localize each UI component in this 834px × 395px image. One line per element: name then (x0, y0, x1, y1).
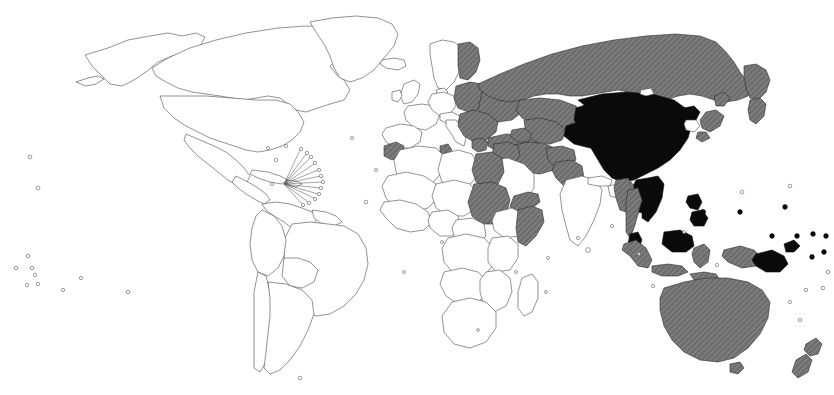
island-bahamas (274, 158, 278, 162)
island-azores (350, 136, 353, 139)
island-tokelau (36, 282, 39, 285)
island-new-caledonia (804, 288, 807, 291)
island-nauru (770, 234, 775, 239)
island-cook (788, 300, 791, 303)
world-map-figure (0, 0, 834, 395)
island-wallis (79, 276, 82, 279)
island-sri-lanka (586, 248, 591, 253)
island-northern-marianas (740, 190, 744, 194)
island-cape-verde (364, 200, 368, 204)
island-tuvalu (811, 232, 816, 237)
island-palau (700, 209, 705, 214)
island-comoros (515, 271, 518, 274)
island-guam (738, 210, 743, 215)
island-micronesia-fsm (788, 184, 792, 188)
island-marshall-islands (783, 205, 788, 210)
island-sao-tome (441, 241, 444, 244)
island-vanuatu (822, 250, 827, 255)
island-bermuda (266, 146, 269, 149)
island-solomon-islands (810, 255, 815, 260)
island-st-helena (403, 271, 406, 274)
region-greece (472, 138, 488, 152)
island-french-polynesia (36, 186, 40, 190)
world-map-svg (0, 0, 834, 395)
island-fiji (824, 234, 829, 239)
island-society (25, 283, 28, 286)
island-timor (715, 263, 718, 266)
island-jamaica (270, 182, 273, 185)
island-maldives (576, 236, 579, 239)
island-galapagos (30, 266, 33, 269)
island-canary (374, 168, 377, 171)
island-hawaii (28, 155, 32, 159)
island-falklands (298, 376, 302, 380)
island-samoa (826, 270, 829, 273)
island-lesotho (477, 329, 480, 332)
island-pitcairn (26, 254, 29, 257)
island-brunei (683, 231, 686, 234)
island-kiribati (795, 234, 800, 239)
island-marquesas (33, 273, 36, 276)
island-norfolk (798, 318, 801, 321)
island-tonga (821, 286, 824, 289)
island-mauritius (545, 291, 548, 294)
island-chatham (126, 290, 129, 293)
island-easter (14, 266, 17, 269)
island-niue (61, 288, 64, 291)
island-seychelles (547, 257, 550, 260)
island-andaman (610, 224, 613, 227)
island-christmas (651, 284, 654, 287)
island-singapore (638, 253, 641, 256)
